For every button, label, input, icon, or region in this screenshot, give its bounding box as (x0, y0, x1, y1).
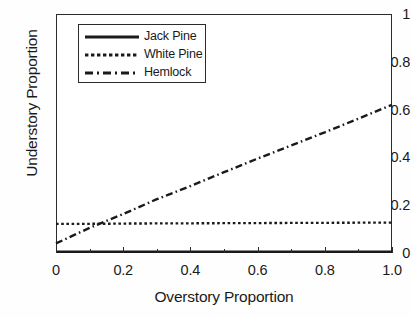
series-line-white-pine (56, 223, 392, 224)
x-tick-mark-minor-0_7 (291, 249, 292, 253)
x-tick-label-1_0: 1.0 (369, 263, 415, 277)
y-axis-title: Understory Proportion (23, 0, 41, 213)
legend-label-white-pine: White Pine (140, 48, 207, 61)
x-tick-label-0_8: 0.8 (302, 263, 348, 277)
legend-swatch-dotted (84, 48, 140, 62)
legend-label-hemlock: Hemlock (140, 66, 207, 79)
x-tick-label-0_6: 0.6 (235, 263, 281, 277)
legend-entry-jack-pine: Jack Pine (79, 27, 207, 46)
x-tick-label-0_4: 0.4 (167, 263, 213, 277)
legend-entry-hemlock: Hemlock (79, 63, 207, 82)
x-tick-mark-0_6 (258, 247, 259, 253)
x-axis-title: Overstory Proportion (56, 288, 392, 306)
x-tick-mark-0 (56, 247, 57, 253)
legend-swatch-solid (84, 30, 140, 44)
legend-swatch-dashdot (84, 66, 140, 80)
x-tick-mark-1_0 (392, 247, 393, 253)
x-tick-label-0_2: 0.2 (100, 263, 146, 277)
x-tick-mark-0_4 (190, 247, 191, 253)
x-tick-mark-minor-0_5 (224, 249, 225, 253)
legend-entry-white-pine: White Pine (79, 45, 207, 64)
x-tick-mark-minor-0_1 (90, 249, 91, 253)
x-tick-mark-minor-0_3 (157, 249, 158, 253)
x-tick-label-0: 0 (33, 263, 79, 277)
legend-box: Jack Pine White Pine Hemlock (78, 24, 206, 83)
legend-label-jack-pine: Jack Pine (140, 30, 207, 43)
x-tick-mark-0_2 (123, 247, 124, 253)
x-tick-mark-minor-0_9 (358, 249, 359, 253)
x-tick-mark-0_8 (325, 247, 326, 253)
